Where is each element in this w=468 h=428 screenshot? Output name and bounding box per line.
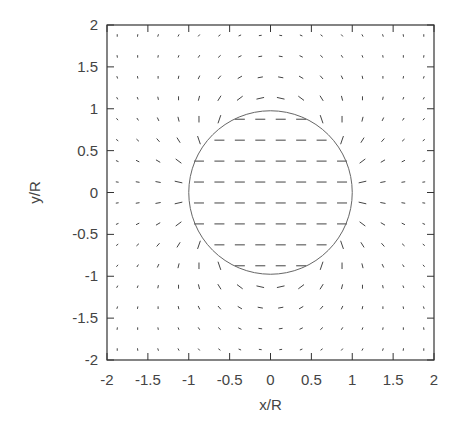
vector-arrow <box>158 97 159 100</box>
vector-arrow <box>198 35 200 37</box>
vector-arrow <box>178 348 179 350</box>
vector-arrow <box>198 241 201 249</box>
vector-arrow <box>137 286 138 288</box>
vector-arrow <box>157 118 159 121</box>
vector-arrow <box>381 160 385 162</box>
vector-arrow <box>218 262 221 270</box>
vector-arrow <box>320 306 323 309</box>
vector-arrow <box>341 55 343 57</box>
vector-arrow <box>341 96 342 101</box>
vector-arrow <box>341 136 344 144</box>
vector-arrow <box>156 160 160 162</box>
vector-arrow <box>136 223 139 225</box>
vector-arrow <box>157 264 159 267</box>
vector-arrow <box>362 34 363 36</box>
x-tick-label: 1.5 <box>383 371 404 388</box>
vector-arrow <box>383 34 384 36</box>
vector-arrow <box>198 76 200 79</box>
vector-arrow <box>362 348 363 350</box>
vector-arrow <box>198 136 201 144</box>
vector-arrow <box>158 285 159 288</box>
vector-arrow <box>403 118 405 120</box>
x-tick-label: -1.5 <box>135 371 161 388</box>
vector-arrow <box>298 285 304 289</box>
vector-arrow <box>136 244 138 246</box>
vector-arrow <box>320 115 323 123</box>
vector-arrow <box>116 265 118 267</box>
vector-arrow <box>218 76 221 79</box>
vector-arrow <box>116 118 118 120</box>
vector-arrow <box>178 34 179 36</box>
vector-arrow <box>238 56 241 58</box>
vector-arrow <box>178 55 179 57</box>
vector-arrow <box>175 181 183 183</box>
vector-arrow <box>218 306 221 309</box>
vector-arrow <box>176 222 182 226</box>
y-tick-label: -1.5 <box>72 309 98 326</box>
vector-arrow <box>359 181 367 183</box>
vector-arrow <box>116 139 118 141</box>
vector-arrow <box>218 35 220 37</box>
unit-circle <box>189 111 353 275</box>
vector-arrow <box>178 76 179 79</box>
y-tick-label: 1.5 <box>77 58 98 75</box>
vector-arrow <box>279 56 283 57</box>
vector-arrow <box>380 202 385 203</box>
vector-arrow <box>321 349 323 351</box>
vector-arrow <box>360 222 366 226</box>
vector-arrow <box>116 244 118 246</box>
y-tick-label: 2 <box>90 16 98 33</box>
vector-arrow <box>423 265 425 267</box>
vector-arrow <box>361 242 364 247</box>
vector-arrow <box>218 284 221 289</box>
y-tick-label: -1 <box>85 267 98 284</box>
vector-arrow <box>341 35 343 37</box>
vector-arrow <box>198 55 200 57</box>
y-axis-ticks: -2-1.5-1-0.500.511.52 <box>72 16 434 368</box>
vector-arrow <box>277 97 285 99</box>
vector-arrow <box>402 160 405 162</box>
x-tick-label: -1 <box>182 371 195 388</box>
vector-arrow <box>218 349 220 351</box>
x-tick-label: 1 <box>348 371 356 388</box>
vector-arrow <box>341 349 343 351</box>
vector-arrow <box>380 182 385 183</box>
vector-arrow <box>403 265 405 267</box>
x-tick-label: 0 <box>266 371 274 388</box>
vector-arrow <box>381 223 385 225</box>
x-axis-title: x/R <box>259 396 282 413</box>
vector-arrow <box>117 306 118 308</box>
vector-arrow <box>300 328 303 330</box>
vector-arrow <box>299 76 303 78</box>
y-tick-label: 0.5 <box>77 142 98 159</box>
vector-arrow <box>157 243 160 246</box>
vector-arrow <box>423 223 426 224</box>
vector-arrow <box>361 138 364 143</box>
vector-arrow <box>158 34 159 36</box>
vector-arrow <box>278 307 283 308</box>
vector-arrow <box>403 286 404 288</box>
vector-arrow <box>198 96 199 101</box>
vector-arrow <box>402 244 404 246</box>
vector-arrow <box>178 117 179 122</box>
vector-arrow <box>423 76 424 78</box>
y-tick-label: -2 <box>85 351 98 368</box>
vector-arrow <box>177 242 180 247</box>
vector-arrow <box>277 286 285 288</box>
vector-arrow <box>362 263 363 268</box>
vector-arrow <box>362 76 363 79</box>
vector-arrow <box>320 55 322 57</box>
vector-arrow <box>258 77 263 78</box>
vector-arrow <box>258 307 263 308</box>
vector-arrow <box>423 306 424 308</box>
vector-arrow <box>341 306 343 309</box>
vector-arrow <box>359 202 367 204</box>
vector-arrow <box>383 348 384 350</box>
vector-arrow <box>117 97 118 99</box>
vector-arrow <box>136 160 139 162</box>
vector-arrow <box>237 96 243 100</box>
vector-arrow <box>156 182 161 183</box>
x-tick-label: -2 <box>100 371 113 388</box>
vector-arrow <box>320 96 323 101</box>
vector-arrow <box>279 328 283 329</box>
